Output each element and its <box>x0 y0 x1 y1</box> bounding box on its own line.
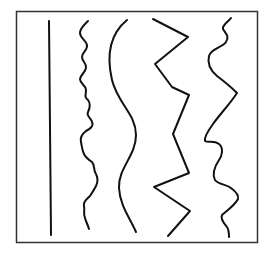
line-zigzag <box>153 19 190 236</box>
line-types-diagram <box>0 0 275 254</box>
line-mixed-curve <box>205 18 238 237</box>
line-irregular-wavy <box>80 21 98 229</box>
line-straight <box>49 21 51 235</box>
diagram-svg <box>0 0 275 254</box>
line-smooth-curve <box>109 20 136 232</box>
